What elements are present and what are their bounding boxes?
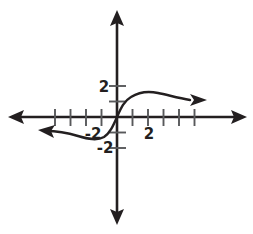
x-axis-label-negative-two: -2 xyxy=(85,125,102,143)
y-axis-label-positive-two: 2 xyxy=(99,78,109,96)
x-axis-label-positive-two: 2 xyxy=(144,125,154,143)
graph-svg: 2 -2 -2 2 xyxy=(0,0,253,234)
curve-right-arrow-icon xyxy=(190,94,207,106)
coordinate-graph-figure: 2 -2 -2 2 xyxy=(0,0,253,234)
x-axis-group xyxy=(8,110,247,124)
